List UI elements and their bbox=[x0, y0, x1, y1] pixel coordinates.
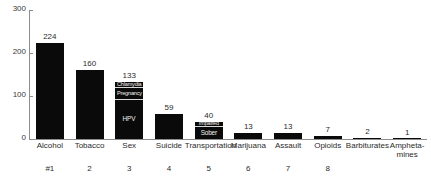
bar bbox=[393, 138, 421, 140]
bar-chart: 0100200300 224160133ChlamydiaPregnancyHP… bbox=[0, 0, 431, 186]
bar-group: 40ImpairedSober bbox=[195, 10, 223, 139]
y-axis-tick: 300 bbox=[0, 10, 33, 11]
x-axis-label-amphetamines: Amphetа- mines bbox=[383, 141, 431, 159]
bar: ImpairedSober bbox=[195, 122, 223, 139]
bar-segment: Pregnancy bbox=[115, 87, 143, 99]
bar-group: 13 bbox=[274, 10, 302, 139]
bar bbox=[274, 133, 302, 139]
plot-area: 224160133ChlamydiaPregnancyHPV5940Impair… bbox=[30, 10, 427, 139]
bar bbox=[314, 136, 342, 139]
bar-value-label: 160 bbox=[76, 59, 104, 68]
x-axis-line bbox=[29, 139, 427, 140]
bar bbox=[234, 133, 262, 139]
bar-segment: Sober bbox=[195, 126, 223, 139]
bar-value-label: 59 bbox=[155, 103, 183, 112]
bar-value-label: 13 bbox=[274, 122, 302, 131]
rank-row: #12345678 bbox=[30, 164, 427, 178]
rank-label: 8 bbox=[308, 164, 348, 174]
bar-segment-label: Pregnancy bbox=[117, 90, 142, 96]
bar bbox=[36, 43, 64, 139]
y-axis-tick-label: 300 bbox=[13, 4, 26, 14]
rank-label: 3 bbox=[109, 164, 149, 174]
rank-label: 4 bbox=[149, 164, 189, 174]
x-axis-category-labels: AlcoholTobaccoSexSuicideTransportationMa… bbox=[30, 141, 427, 163]
bar-value-label: 40 bbox=[195, 111, 223, 120]
rank-label: 7 bbox=[268, 164, 308, 174]
bar-segment-label: Sober bbox=[201, 129, 217, 136]
rank-label: 6 bbox=[229, 164, 269, 174]
bar-group: 13 bbox=[234, 10, 262, 139]
y-axis-tick-label: 100 bbox=[13, 90, 26, 100]
bar-value-label: 224 bbox=[36, 32, 64, 41]
bar-value-label: 13 bbox=[234, 122, 262, 131]
bar-group: 7 bbox=[314, 10, 342, 139]
bar-value-label: 1 bbox=[393, 128, 421, 137]
bar bbox=[353, 138, 381, 140]
bar-value-label: 2 bbox=[353, 127, 381, 136]
bar-segment: HPV bbox=[115, 99, 143, 139]
bar-group: 224 bbox=[36, 10, 64, 139]
bar-value-label: 7 bbox=[314, 125, 342, 134]
bar-group: 2 bbox=[353, 10, 381, 139]
bar-group: 133ChlamydiaPregnancyHPV bbox=[115, 10, 143, 139]
rank-label: #1 bbox=[30, 164, 70, 174]
bar bbox=[76, 70, 104, 139]
bar-segment-label: HPV bbox=[123, 116, 136, 123]
y-axis-tick: 100 bbox=[0, 96, 33, 97]
bar-value-label: 133 bbox=[115, 71, 143, 80]
rank-label: 2 bbox=[70, 164, 110, 174]
bar-group: 160 bbox=[76, 10, 104, 139]
y-axis-tick-label: 200 bbox=[13, 47, 26, 57]
rank-label: 5 bbox=[189, 164, 229, 174]
y-axis-tick: 0 bbox=[0, 139, 33, 140]
bar-group: 1 bbox=[393, 10, 421, 139]
bar: ChlamydiaPregnancyHPV bbox=[115, 82, 143, 139]
bar bbox=[155, 114, 183, 139]
bar-group: 59 bbox=[155, 10, 183, 139]
y-axis-tick: 200 bbox=[0, 53, 33, 54]
y-axis-tick-mark bbox=[29, 139, 33, 140]
